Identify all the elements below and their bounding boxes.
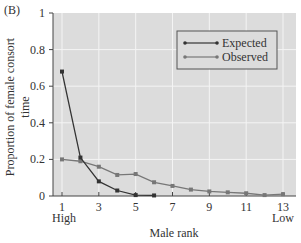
- x-axis-label: Male rank: [52, 226, 296, 241]
- svg-text:0: 0: [39, 189, 45, 203]
- svg-text:9: 9: [206, 200, 212, 214]
- x-extreme-low: Low: [272, 211, 294, 226]
- svg-text:1: 1: [39, 6, 45, 20]
- svg-text:7: 7: [170, 200, 176, 214]
- chart-plot: 00.20.40.60.81135791113ExpectedObserved: [0, 0, 301, 243]
- svg-text:5: 5: [133, 200, 139, 214]
- svg-text:3: 3: [96, 200, 102, 214]
- svg-text:Observed: Observed: [222, 50, 268, 64]
- svg-text:Expected: Expected: [222, 36, 267, 50]
- svg-text:11: 11: [240, 200, 252, 214]
- y-axis-label: Proportion of female consort time: [3, 27, 33, 187]
- x-extreme-high: High: [52, 211, 76, 226]
